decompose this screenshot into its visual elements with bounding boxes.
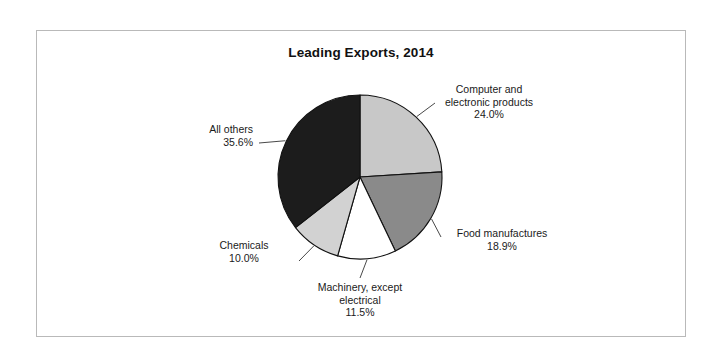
pie-label-computer-value: 24.0% [409,108,569,121]
pie-label-machinery-except-electrical: Machinery, except electrical 11.5% [285,281,435,319]
pie-label-computer-line2: electronic products [409,96,569,109]
pie-label-machinery-value: 11.5% [285,306,435,319]
pie-label-machinery-line2: electrical [285,294,435,307]
chart-frame: Leading Exports, 2014 All others 35.6% C… [36,30,686,337]
pie-label-all-others-value: 35.6% [123,136,253,149]
pie-label-chemicals: Chemicals 10.0% [189,239,299,264]
pie-label-machinery-line1: Machinery, except [285,281,435,294]
pie-label-all-others-name: All others [123,123,253,136]
pie-label-chemicals-value: 10.0% [189,252,299,265]
pie-label-food-value: 18.9% [427,240,577,253]
pie-label-food-name: Food manufactures [427,227,577,240]
pie-label-computer-and-electronic-products: Computer and electronic products 24.0% [409,83,569,121]
figure-root: Leading Exports, 2014 All others 35.6% C… [0,0,723,361]
pie-label-computer-line1: Computer and [409,83,569,96]
pie-leader-line [259,141,285,143]
pie-label-all-others: All others 35.6% [123,123,253,148]
pie-label-chemicals-name: Chemicals [189,239,299,252]
pie-label-food-manufactures: Food manufactures 18.9% [427,227,577,252]
pie-leader-line [299,246,314,261]
pie-leader-line [360,260,367,278]
